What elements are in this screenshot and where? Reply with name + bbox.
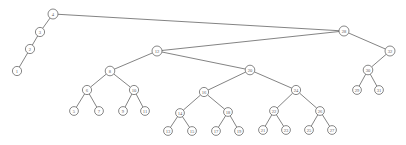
node-circle: [259, 126, 268, 135]
tree-node-20: 20: [245, 65, 255, 75]
tree-node-26: 26: [316, 107, 325, 116]
tree-edge: [76, 94, 84, 107]
node-circle: [82, 85, 91, 94]
node-circle: [375, 86, 384, 95]
node-circle: [141, 107, 150, 116]
tree-edge: [265, 115, 272, 126]
node-circle: [282, 126, 291, 135]
tree-node-18: 18: [224, 108, 233, 117]
tree-node-29: 29: [353, 86, 362, 95]
tree-edge: [370, 74, 377, 86]
tree-node-28: 28: [339, 26, 349, 36]
tree-edge: [43, 18, 50, 28]
node-circle: [339, 26, 349, 36]
tree-node-15: 15: [188, 127, 197, 136]
tree-node-17: 17: [212, 127, 221, 136]
tree-edge: [58, 14, 339, 30]
tree-node-22: 22: [270, 107, 279, 116]
tree-node-5: 5: [70, 107, 79, 116]
tree-edge: [311, 115, 318, 126]
tree-edge: [372, 54, 387, 67]
node-circle: [119, 107, 128, 116]
node-circle: [105, 66, 115, 76]
tree-node-32: 32: [385, 46, 395, 56]
tree-node-14: 14: [176, 109, 185, 118]
tree-node-11: 11: [141, 107, 150, 116]
tree-node-19: 19: [235, 127, 244, 136]
tree-node-16: 16: [199, 87, 208, 96]
tree-edge: [277, 93, 292, 108]
tree-edge: [230, 116, 237, 127]
tree-node-7: 7: [95, 107, 104, 116]
tree-node-2: 2: [25, 44, 34, 53]
node-circle: [291, 85, 300, 94]
node-circle: [152, 46, 162, 56]
tree-node-9: 9: [119, 107, 128, 116]
tree-edge: [208, 72, 246, 90]
tree-edge: [162, 52, 245, 69]
tree-node-27: 27: [328, 126, 337, 135]
node-circle: [328, 126, 337, 135]
tree-node-1: 1: [12, 66, 21, 75]
node-circle: [70, 107, 79, 116]
node-circle: [385, 46, 395, 56]
tree-edge: [91, 74, 107, 87]
tree-edge: [299, 93, 316, 108]
node-circle: [353, 86, 362, 95]
tree-node-10: 10: [129, 85, 138, 94]
tree-edge: [322, 115, 329, 127]
tree-node-13: 13: [164, 127, 173, 136]
tree-edge: [32, 36, 37, 45]
node-circle: [48, 9, 58, 19]
tree-node-31: 31: [375, 86, 384, 95]
tree-edge: [19, 53, 27, 67]
tree-node-6: 6: [82, 85, 91, 94]
tree-edge: [276, 115, 283, 127]
node-circle: [235, 127, 244, 136]
node-circle: [35, 27, 44, 36]
node-circle: [176, 109, 185, 118]
node-circle: [212, 127, 221, 136]
node-circle: [95, 107, 104, 116]
node-circle: [199, 87, 208, 96]
tree-edge: [162, 32, 339, 51]
tree-edge: [114, 53, 152, 69]
tree-node-30: 30: [363, 65, 373, 75]
tree-edge: [114, 74, 131, 87]
node-circle: [188, 127, 197, 136]
tree-edge: [208, 95, 225, 109]
node-circle: [129, 85, 138, 94]
tree-node-8: 8: [105, 66, 115, 76]
tree-node-3: 3: [35, 27, 44, 36]
tree-edge: [182, 117, 189, 128]
tree-edge: [349, 33, 386, 49]
tree-node-12: 12: [152, 46, 162, 56]
node-circle: [25, 44, 34, 53]
tree-edge: [218, 116, 225, 128]
tree-edge: [89, 94, 97, 107]
node-circle: [245, 65, 255, 75]
node-circle: [305, 126, 314, 135]
tree-node-21: 21: [259, 126, 268, 135]
tree-edge: [125, 94, 132, 107]
tree-node-25: 25: [305, 126, 314, 135]
node-circle: [12, 66, 21, 75]
tree-edge: [136, 94, 143, 107]
tree-node-4: 4: [48, 9, 58, 19]
tree-edge: [254, 72, 291, 88]
tree-edge: [170, 117, 177, 128]
node-circle: [164, 127, 173, 136]
node-circle: [363, 65, 373, 75]
tree-diagram-figure: 4321281232820306101624579111418222629311…: [0, 0, 406, 145]
tree-graph-canvas: 4321281232820306101624579111418222629311…: [0, 0, 406, 145]
tree-node-24: 24: [291, 85, 300, 94]
node-layer: 4321281232820306101624579111418222629311…: [12, 9, 395, 135]
tree-node-23: 23: [282, 126, 291, 135]
tree-edge: [359, 74, 366, 86]
node-circle: [316, 107, 325, 116]
tree-edge: [183, 95, 200, 110]
node-circle: [224, 108, 233, 117]
node-circle: [270, 107, 279, 116]
